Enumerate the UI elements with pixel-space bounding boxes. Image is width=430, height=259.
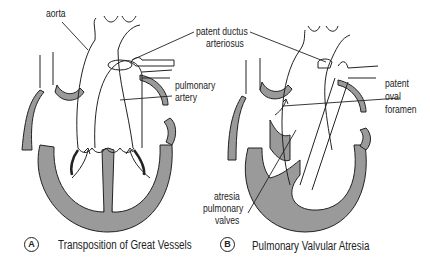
caption-a: Transposition of Great Vessels [58,238,192,252]
label-atresia-line3: valves [215,215,239,226]
label-patent-oval-line3: foramen [385,104,417,115]
caption-b: Pulmonary Valvular Atresia [252,239,369,253]
atrial-wall-b [270,120,290,161]
label-pulmonary-artery-line1: pulmonary [175,80,215,91]
panel-badge-a: A [24,237,39,252]
label-aorta: aorta [46,8,66,19]
left-atrial-wall-a [22,90,44,150]
panel-badge-b: B [220,237,235,252]
septum-a [102,148,114,212]
heart-defects-diagram: aorta patent ductus arteriosus pulmonary… [0,0,430,259]
label-pulmonary-artery-line2: artery [175,92,197,103]
label-atresia-line1: atresia [214,191,240,202]
label-patent-oval-line1: patent [385,78,409,89]
aorta-a [77,18,140,148]
right-atrial-wall-a [140,75,168,105]
pulmonary-artery-a [95,61,142,148]
label-patent-ductus-line2: arteriosus [206,38,244,49]
label-atresia-line2: pulmonary [203,203,243,214]
heart-a [22,16,176,232]
label-patent-ductus-line1: patent ductus [196,26,248,37]
label-patent-oval-line2: oval [385,91,401,102]
ventricle-wall-b [245,145,366,232]
heart-b [228,26,378,232]
